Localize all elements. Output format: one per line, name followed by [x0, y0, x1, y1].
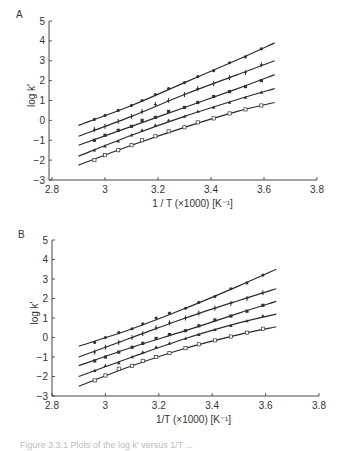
- x-tick-label: 3.8: [312, 400, 326, 411]
- x-axis-title: 1/T (×1000) [K⁻¹]: [156, 414, 231, 425]
- data-point-triangle: [141, 350, 145, 353]
- x-tick-label: 3.8: [310, 184, 324, 195]
- data-point-circle: [229, 287, 232, 290]
- x-tick-label: 3: [103, 400, 109, 411]
- data-point-circle: [154, 93, 157, 96]
- fit-line: [79, 327, 277, 386]
- fit-line: [79, 102, 275, 165]
- data-point-open-square: [155, 355, 158, 358]
- data-point-square: [244, 85, 247, 88]
- figure: A−3−2−10123452.833.23.43.63.81 / T (×100…: [0, 0, 341, 451]
- data-point-triangle: [261, 314, 265, 317]
- data-point-open-square: [229, 335, 232, 338]
- fit-line: [79, 314, 277, 376]
- data-point-open-square: [260, 104, 263, 107]
- series-series-2: [79, 289, 277, 357]
- y-tick-label: 3: [42, 274, 48, 285]
- x-tick-label: 3.6: [259, 400, 273, 411]
- x-tick-label: 3.6: [257, 184, 271, 195]
- series-series-5: [79, 327, 277, 386]
- data-point-open-square: [244, 108, 247, 111]
- y-tick-label: −3: [34, 175, 46, 186]
- data-point-triangle: [104, 364, 108, 367]
- data-point-triangle: [154, 123, 158, 126]
- data-point-circle: [168, 312, 171, 315]
- data-point-square: [93, 359, 96, 362]
- series-series-4: [79, 89, 275, 157]
- y-tick-label: 2: [42, 293, 48, 304]
- data-point-circle: [167, 87, 170, 90]
- panel-b-chart: B−3−2−10123452.833.23.43.63.81/T (×1000)…: [18, 229, 326, 425]
- data-point-circle: [196, 75, 199, 78]
- data-point-square: [245, 310, 248, 313]
- panel-label: B: [18, 229, 25, 240]
- data-point-open-square: [168, 352, 171, 355]
- data-point-open-square: [261, 327, 264, 330]
- y-tick-label: −1: [37, 352, 49, 363]
- data-point-circle: [197, 301, 200, 304]
- data-point-open-square: [245, 331, 248, 334]
- data-point-open-square: [228, 112, 231, 115]
- data-point-circle: [131, 327, 134, 330]
- data-point-circle: [261, 274, 264, 277]
- data-point-open-square: [141, 359, 144, 362]
- data-point-circle: [228, 61, 231, 64]
- series-series-4: [79, 314, 277, 376]
- series-series-1: [79, 269, 277, 346]
- data-point-square: [261, 304, 264, 307]
- data-point-circle: [212, 69, 215, 72]
- series-series-5: [79, 102, 275, 165]
- data-point-circle: [130, 104, 133, 107]
- x-tick-label: 3.4: [205, 400, 219, 411]
- data-point-open-square: [197, 343, 200, 346]
- x-tick-label: 2.8: [45, 184, 59, 195]
- data-point-circle: [213, 295, 216, 298]
- data-point-circle: [245, 281, 248, 284]
- y-tick-label: 5: [39, 16, 45, 27]
- figure-caption: Figure 3.3.1 Plots of the log k′ versus …: [20, 440, 193, 450]
- data-point-square: [229, 314, 232, 317]
- y-tick-label: −2: [37, 371, 49, 382]
- x-tick-label: 2.8: [45, 400, 59, 411]
- data-point-square: [154, 116, 157, 119]
- data-point-square: [184, 329, 187, 332]
- y-tick-label: 0: [42, 332, 48, 343]
- y-axis-title: log k': [26, 84, 37, 107]
- y-tick-label: 5: [42, 235, 48, 246]
- data-point-triangle: [140, 128, 144, 131]
- data-point-open-square: [131, 364, 134, 367]
- data-point-square: [141, 342, 144, 345]
- data-point-open-square: [196, 121, 199, 124]
- data-point-square: [213, 318, 216, 321]
- data-point-square: [260, 79, 263, 82]
- x-tick-label: 3.2: [152, 400, 166, 411]
- data-point-square: [131, 346, 134, 349]
- y-tick-label: −2: [34, 155, 46, 166]
- data-point-square: [212, 95, 215, 98]
- data-point-circle: [117, 331, 120, 334]
- data-point-open-square: [213, 339, 216, 342]
- data-point-open-square: [212, 117, 215, 120]
- data-point-triangle: [167, 118, 171, 121]
- data-point-circle: [141, 99, 144, 102]
- data-point-square: [167, 110, 170, 113]
- data-point-circle: [93, 341, 96, 344]
- panel-label: A: [16, 9, 23, 20]
- data-point-circle: [260, 47, 263, 50]
- y-tick-label: 4: [39, 35, 45, 46]
- data-point-open-square: [117, 367, 120, 370]
- data-point-circle: [155, 316, 158, 319]
- x-tick-label: 3.4: [204, 184, 218, 195]
- data-point-square: [93, 139, 96, 142]
- data-point-open-square: [104, 374, 107, 377]
- data-point-square: [117, 129, 120, 132]
- panel-a-chart: A−3−2−10123452.833.23.43.63.81 / T (×100…: [16, 9, 324, 209]
- x-tick-label: 3: [102, 184, 108, 195]
- data-point-open-square: [154, 135, 157, 138]
- data-point-circle: [184, 307, 187, 310]
- data-point-open-square: [117, 149, 120, 152]
- y-tick-label: −1: [34, 135, 46, 146]
- data-point-circle: [103, 114, 106, 117]
- data-point-open-square: [141, 139, 144, 142]
- data-point-square: [141, 119, 144, 122]
